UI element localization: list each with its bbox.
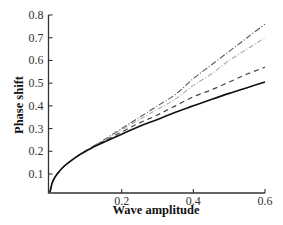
y-tick-label: 0.3 [29,122,44,136]
y-axis-title: Phase shift [12,75,26,134]
y-tick-label: 0.8 [29,8,44,22]
y-tick-label: 0.1 [29,167,44,181]
series-layer [50,24,265,192]
y-tick-label: 0.7 [29,31,44,45]
y-tick-label: 0.5 [29,76,44,90]
series-line-1 [50,24,265,192]
axis-labels: 0.10.20.30.40.50.60.70.80.20.40.6 [29,8,273,208]
y-tick-label: 0.4 [29,99,44,113]
y-tick-label: 0.2 [29,144,44,158]
axes [49,15,266,193]
axis-lines [49,15,266,193]
y-tick-label: 0.6 [29,53,44,67]
series-line-4 [50,82,265,192]
chart: 0.10.20.30.40.50.60.70.80.20.40.6 Wave a… [0,0,283,225]
x-axis-title: Wave amplitude [112,203,200,217]
series-line-3 [50,67,265,192]
x-tick-label: 0.6 [258,194,273,208]
